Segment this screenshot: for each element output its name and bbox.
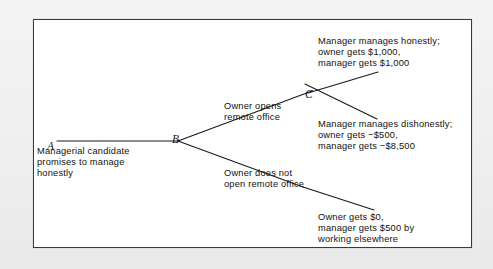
decision-tree-figure: A B C Managerial candidate promises to m… bbox=[0, 0, 493, 269]
branch-label-open-office: Owner opens remote office bbox=[224, 101, 281, 123]
payoff-text-dishonest: Manager manages dishonestly; owner gets … bbox=[318, 119, 452, 152]
node-label-b: B bbox=[172, 134, 179, 146]
payoff-text-no-office: Owner gets $0, manager gets $500 by work… bbox=[318, 212, 414, 245]
branch-label-no-office: Owner does not open remote office bbox=[224, 168, 304, 190]
payoff-text-honest: Manager manages honestly; owner gets $1,… bbox=[318, 36, 440, 69]
node-label-c: C bbox=[305, 89, 313, 101]
root-description-text: Managerial candidate promises to manage … bbox=[37, 146, 130, 179]
